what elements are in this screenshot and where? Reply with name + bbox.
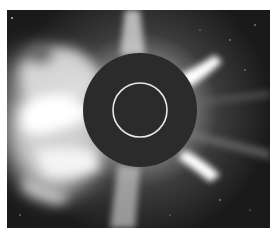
coronagraph-image bbox=[7, 10, 270, 228]
occulting-disk bbox=[83, 53, 197, 167]
corona-graphic bbox=[7, 10, 270, 228]
